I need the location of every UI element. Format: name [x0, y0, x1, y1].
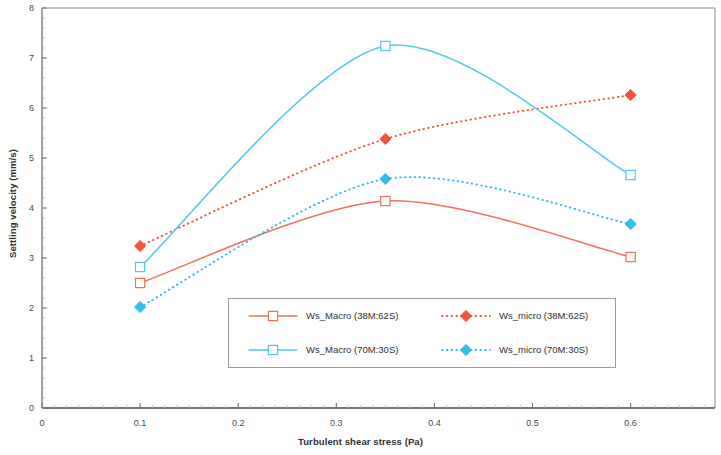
legend-swatch-ws-micro-38m62s [440, 309, 492, 323]
legend-label: Ws_Macro (38M:62S) [306, 311, 398, 321]
x-tick-label: 0.5 [526, 418, 539, 428]
y-tick-label: 8 [8, 3, 34, 13]
y-tick-label: 4 [8, 203, 34, 213]
legend: Ws_Macro (38M:62S) Ws_micro (38M:62S) Ws… [228, 298, 616, 368]
x-tick-label: 0.6 [624, 418, 637, 428]
legend-swatch-ws-micro-70m30s [440, 343, 492, 357]
x-tick-label: 0.4 [428, 418, 441, 428]
x-tick-label: 0 [39, 418, 44, 428]
x-tick-label: 0.1 [134, 418, 147, 428]
legend-label: Ws_micro (38M:62S) [499, 311, 588, 321]
x-tick-label: 0.3 [330, 418, 343, 428]
legend-item-ws-macro-70m30s: Ws_Macro (70M:30S) [229, 343, 422, 357]
y-tick-label: 5 [8, 153, 34, 163]
x-axis-label: Turbulent shear stress (Pa) [0, 436, 721, 447]
y-tick-label: 1 [8, 353, 34, 363]
legend-item-ws-micro-38m62s: Ws_micro (38M:62S) [422, 309, 615, 323]
chart-figure: Settling velocity (mm/s) Turbulent shear… [0, 0, 721, 455]
series-markers [135, 41, 637, 312]
legend-swatch-ws-macro-38m62s [247, 309, 299, 323]
y-tick-label: 6 [8, 103, 34, 113]
y-tick-label: 3 [8, 253, 34, 263]
legend-item-ws-macro-38m62s: Ws_Macro (38M:62S) [229, 309, 422, 323]
legend-swatch-ws-macro-70m30s [247, 343, 299, 357]
x-tick-label: 0.2 [232, 418, 245, 428]
legend-label: Ws_micro (70M:30S) [499, 345, 588, 355]
y-tick-label: 2 [8, 303, 34, 313]
plot-canvas [0, 0, 721, 455]
y-tick-label: 0 [8, 403, 34, 413]
legend-label: Ws_Macro (70M:30S) [306, 345, 398, 355]
legend-item-ws-micro-70m30s: Ws_micro (70M:30S) [422, 343, 615, 357]
y-tick-label: 7 [8, 53, 34, 63]
